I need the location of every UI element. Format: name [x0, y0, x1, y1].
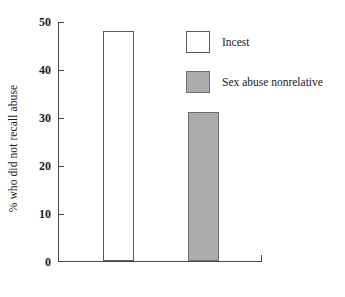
y-tick-mark	[58, 70, 64, 71]
legend-swatch-icon-sex-abuse-nonrelative	[186, 71, 210, 93]
legend-swatch-icon-incest	[186, 31, 210, 53]
y-tick-label: 20	[39, 159, 51, 174]
legend-label-incest: Incest	[222, 36, 249, 48]
y-tick-label: 30	[39, 111, 51, 126]
y-tick-mark	[58, 118, 64, 119]
y-tick-label: 10	[39, 207, 51, 222]
y-tick-label: 40	[39, 63, 51, 78]
y-tick-mark	[58, 22, 64, 23]
x-axis-right-cap	[261, 255, 262, 262]
x-axis-line	[58, 261, 262, 262]
legend: Incest Sex abuse nonrelative	[186, 31, 323, 111]
legend-label-sex-abuse-nonrelative: Sex abuse nonrelative	[222, 76, 323, 88]
bar-chart: % who did not recall abuse 01020304050 I…	[0, 0, 345, 297]
y-tick-label: 50	[39, 15, 51, 30]
y-axis-title: % who did not recall abuse	[0, 0, 26, 297]
y-tick-mark	[58, 214, 64, 215]
legend-item-incest: Incest	[186, 31, 323, 53]
y-tick-mark	[58, 166, 64, 167]
y-axis-line	[58, 22, 59, 262]
legend-item-sex-abuse-nonrelative: Sex abuse nonrelative	[186, 71, 323, 93]
bar-sex-abuse-nonrelative	[188, 112, 219, 261]
y-tick-label: 0	[45, 255, 51, 270]
bar-incest	[103, 31, 134, 261]
